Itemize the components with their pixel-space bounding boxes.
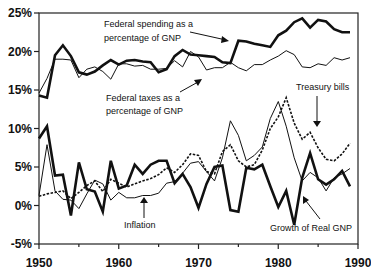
svg-text:Treasury bills: Treasury bills xyxy=(296,82,350,92)
annotation-taxes: Federal taxes as a percentage of GNP xyxy=(106,79,202,116)
x-tick-label: 1970 xyxy=(185,256,212,270)
annotation-spending: Federal spending as a percentage of GNP xyxy=(104,19,229,43)
y-tick-label: 25% xyxy=(8,6,32,20)
svg-text:Federal taxes as a: Federal taxes as a xyxy=(106,93,180,103)
svg-text:Growth of Real GNP: Growth of Real GNP xyxy=(270,223,352,233)
x-tick-label: 1950 xyxy=(26,256,53,270)
svg-text:percentage of GNP: percentage of GNP xyxy=(106,106,183,116)
series-line-growth-of-real-gnp xyxy=(39,126,350,225)
arrowhead-icon xyxy=(140,197,148,203)
y-tick-label: 20% xyxy=(8,45,32,59)
svg-text:percentage of GNP: percentage of GNP xyxy=(104,33,181,43)
svg-text:Federal spending as a: Federal spending as a xyxy=(104,19,193,29)
x-axis: 19501960197019801990 xyxy=(26,244,371,270)
y-axis: 25%20%15%10%5%0%-5% xyxy=(8,6,39,251)
svg-text:Inflation: Inflation xyxy=(124,220,156,230)
arrow-icon xyxy=(306,201,320,219)
series-lines xyxy=(39,18,350,224)
y-tick-label: 5% xyxy=(15,160,33,174)
line-chart: 25%20%15%10%5%0%-5% 19501960197019801990… xyxy=(0,0,371,273)
annotation-inflation: Inflation xyxy=(124,197,156,230)
arrow-icon xyxy=(190,32,226,40)
arrow-icon xyxy=(180,82,198,92)
x-tick-label: 1960 xyxy=(105,256,132,270)
arrowhead-icon xyxy=(303,196,309,204)
x-tick-label: 1980 xyxy=(265,256,292,270)
y-tick-label: -5% xyxy=(11,237,33,251)
y-tick-label: 0% xyxy=(15,199,33,213)
y-tick-label: 10% xyxy=(8,122,32,136)
arrowhead-icon xyxy=(221,36,229,43)
arrowhead-icon xyxy=(194,79,202,86)
annotation-treasury-bills: Treasury bills xyxy=(296,82,350,127)
x-tick-label: 1990 xyxy=(345,256,371,270)
y-tick-label: 15% xyxy=(8,83,32,97)
arrowhead-icon xyxy=(313,121,321,127)
